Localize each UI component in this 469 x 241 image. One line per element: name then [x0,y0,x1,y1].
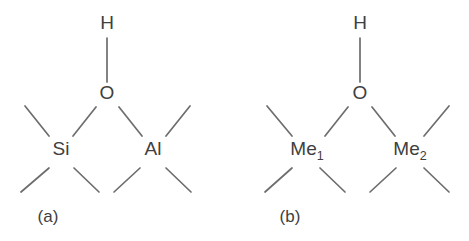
atom-label-center: Si [53,138,70,159]
bond-outer [424,168,449,192]
structure-svg: HOSiAl(a)HOMe1Me2(b) [0,0,469,241]
atom-label-subscript: 1 [317,149,324,163]
bond-outer [424,106,449,136]
bond-outer [166,168,191,192]
atom-label-oxygen: O [353,82,368,103]
bond-outer [370,168,396,192]
atom-label-hydrogen: H [100,12,114,33]
bond-outer [166,106,190,136]
bond-outer [114,168,140,192]
bond-outer [21,168,49,192]
panel-caption: (b) [280,207,301,226]
atom-label-center: Me2 [393,138,426,163]
bond-oxygen-center [119,107,142,136]
bond-oxygen-center [73,107,96,136]
atom-label-center: Al [145,138,162,159]
bond-outer [265,168,292,192]
bond-outer [74,168,99,192]
atom-label-subscript: 2 [420,149,427,163]
structure-panel: HOMe1Me2(b) [265,12,449,226]
chemical-structure-figure: HOSiAl(a)HOMe1Me2(b) [0,0,469,241]
structure-panel: HOSiAl(a) [21,12,191,226]
atom-label-oxygen: O [100,82,115,103]
atom-label-center: Me1 [290,138,323,163]
bond-oxygen-center [325,107,348,136]
panel-caption: (a) [38,207,59,226]
atom-label-hydrogen: H [353,12,367,33]
bond-oxygen-center [372,107,395,136]
bond-outer [320,168,345,192]
bond-outer [267,106,292,136]
bond-outer [25,106,49,136]
